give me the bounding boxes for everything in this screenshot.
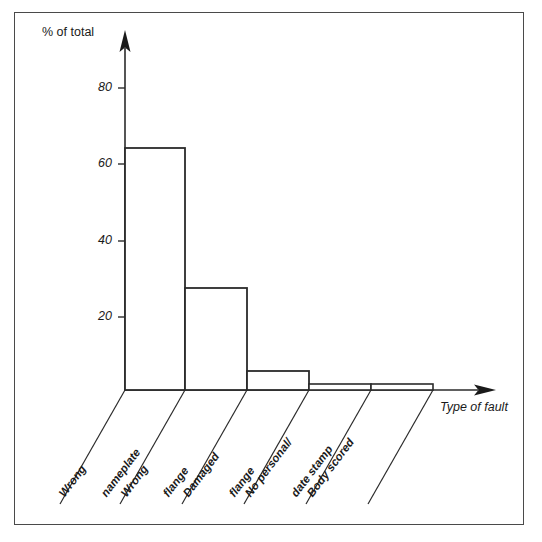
bar-damaged-flange xyxy=(247,371,309,390)
y-axis-title: % of total xyxy=(42,26,94,39)
chart-figure: % of total Type of fault 80 60 40 20 Wro… xyxy=(0,0,542,542)
bar-body-scored xyxy=(371,384,433,390)
category-leader-line-5 xyxy=(368,390,433,504)
bar-wrong-nameplate xyxy=(125,148,185,390)
ytick-label-20: 20 xyxy=(82,310,112,323)
bar-wrong-flange xyxy=(185,288,247,390)
ytick-label-80: 80 xyxy=(82,81,112,94)
bar-no-personal-date-stamp xyxy=(309,384,371,390)
ytick-label-60: 60 xyxy=(82,157,112,170)
x-axis-title: Type of fault xyxy=(440,401,508,414)
ytick-label-40: 40 xyxy=(82,234,112,247)
